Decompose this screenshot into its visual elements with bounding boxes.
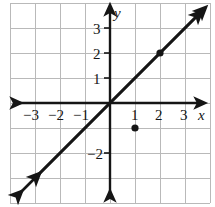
x-tick-label-1: 1 <box>131 108 139 123</box>
y-tick-label-neg2: −2 <box>87 147 103 162</box>
y-tick-label-2: 2 <box>93 47 101 62</box>
coordinate-plane-figure: −3 −2 −1 1 2 3 3 2 1 −2 y x <box>0 0 215 207</box>
x-tick-label-neg3: −3 <box>23 108 39 123</box>
y-tick-label-3: 3 <box>93 22 101 37</box>
y-tick-label-1: 1 <box>93 72 101 87</box>
graph-canvas <box>0 0 215 207</box>
x-tick-label-3: 3 <box>180 108 188 123</box>
x-axis-name-label: x <box>198 108 205 123</box>
y-axis-name-label: y <box>114 6 121 21</box>
x-tick-label-neg2: −2 <box>48 108 64 123</box>
data-point-2-2 <box>156 49 163 56</box>
x-tick-label-2: 2 <box>155 108 163 123</box>
data-point-1-neg1 <box>131 124 138 131</box>
x-tick-label-neg1: −1 <box>73 108 89 123</box>
